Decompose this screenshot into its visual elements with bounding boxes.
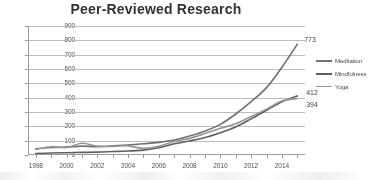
x-tick-mark — [128, 155, 129, 158]
x-tick-mark — [159, 155, 160, 158]
x-tick-mark — [67, 155, 68, 158]
x-tick-mark — [36, 155, 37, 158]
legend-item-meditation[interactable]: Meditation — [316, 54, 382, 67]
chart-title: Peer-Reviewed Research — [0, 1, 312, 17]
x-tick-mark — [97, 155, 98, 158]
x-tick-mark — [251, 155, 252, 158]
x-tick-mark — [113, 155, 114, 158]
x-tick-mark — [51, 155, 52, 158]
legend-item-yoga[interactable]: Yoga — [316, 80, 382, 93]
scan-artifact — [0, 172, 382, 180]
x-tick-label: 2010 — [207, 163, 233, 170]
legend-swatch-meditation — [316, 60, 332, 62]
chart-legend: MeditationMindfulnessYoga — [316, 54, 382, 93]
x-tick-label: 2008 — [177, 163, 203, 170]
legend-label: Meditation — [335, 58, 362, 64]
x-tick-label: 2002 — [84, 163, 110, 170]
legend-label: Yoga — [335, 84, 348, 90]
x-tick-mark — [174, 155, 175, 158]
legend-swatch-yoga — [316, 86, 332, 87]
legend-item-mindfulness[interactable]: Mindfulness — [316, 67, 382, 80]
peer-reviewed-research-chart: Peer-Reviewed Research 01002003004005006… — [0, 0, 382, 180]
x-tick-label: 2004 — [115, 163, 141, 170]
series-line — [36, 44, 298, 148]
x-tick-label: 2000 — [54, 163, 80, 170]
x-tick-label: 1998 — [23, 163, 49, 170]
x-tick-mark — [143, 155, 144, 158]
x-tick-mark — [297, 155, 298, 158]
x-tick-label: 2006 — [146, 163, 172, 170]
x-tick-mark — [282, 155, 283, 158]
data-label-meditation: 773 — [304, 36, 315, 43]
x-tick-mark — [190, 155, 191, 158]
legend-swatch-mindfulness — [316, 73, 332, 75]
y-tick-mark — [25, 155, 28, 156]
legend-label: Mindfulness — [335, 71, 366, 77]
x-tick-mark — [267, 155, 268, 158]
data-label-yoga: 394 — [306, 101, 317, 108]
x-tick-mark — [220, 155, 221, 158]
x-tick-mark — [236, 155, 237, 158]
x-tick-label: 2012 — [238, 163, 264, 170]
series-lines — [28, 26, 305, 155]
x-tick-label: 2014 — [269, 163, 295, 170]
x-tick-mark — [205, 155, 206, 158]
plot-area — [28, 26, 305, 155]
x-tick-mark — [82, 155, 83, 158]
